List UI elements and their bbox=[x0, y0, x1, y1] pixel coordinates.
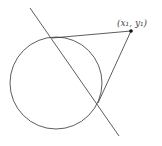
circle bbox=[10, 37, 102, 129]
tangent-line-upper bbox=[52, 31, 131, 38]
external-point bbox=[129, 29, 133, 33]
point-label: (x₁, y₁) bbox=[117, 18, 147, 28]
chord-of-contact-line bbox=[30, 8, 119, 136]
tangent-line-lower bbox=[98, 31, 131, 103]
